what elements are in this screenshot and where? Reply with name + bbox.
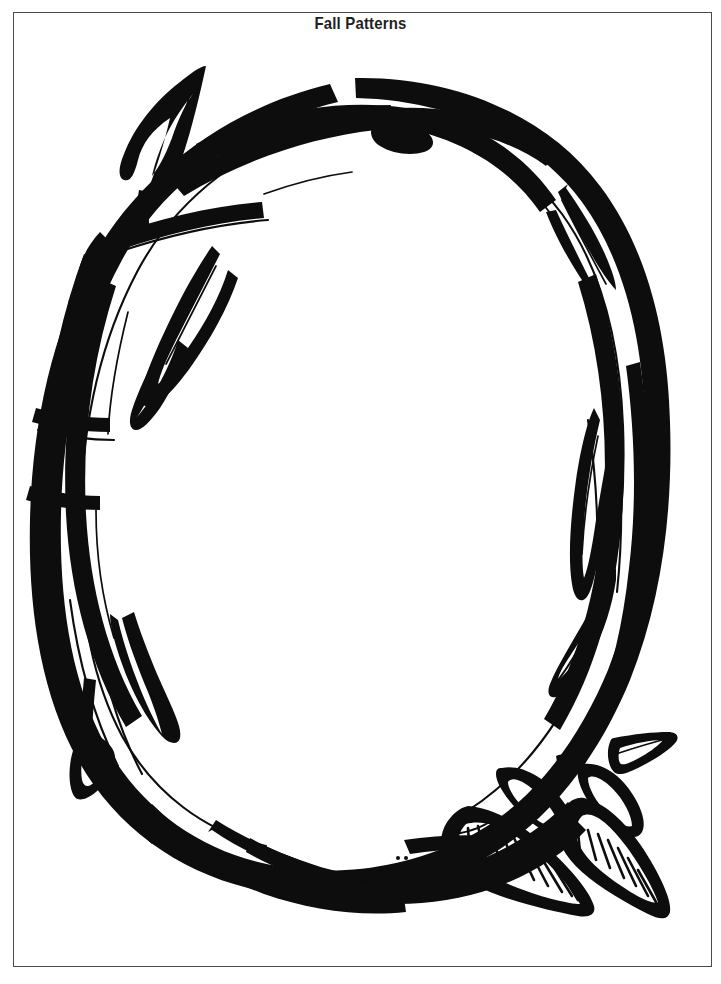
page-title: Fall Patterns <box>43 14 677 34</box>
coloring-page: Fall Patterns <box>0 0 721 984</box>
leaf-left-diamond-lower <box>130 340 188 430</box>
wreath-svg <box>0 40 721 984</box>
leaf-left-diamond-upper <box>140 246 238 406</box>
wreath-illustration <box>0 40 721 984</box>
leaf-striated-large-right <box>558 798 671 918</box>
leaf-right-arrow <box>608 732 678 774</box>
vine-texture-ticks <box>96 152 554 883</box>
